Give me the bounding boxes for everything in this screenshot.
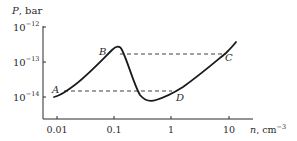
x-tick-label: 0.01 (46, 124, 67, 135)
pv-isotherm-chart: P, bar 10−12 10−13 10−14 0.01 0.1 1 10 n… (0, 0, 297, 141)
point-label-c: C (225, 52, 233, 63)
point-label-a: A (51, 84, 59, 95)
point-label-b: B (98, 46, 106, 57)
x-tick-label: 1 (168, 124, 174, 135)
x-tick-label: 0.1 (106, 124, 121, 135)
x-axis-title: n, cm−3 (250, 123, 286, 135)
y-tick-label: 10−12 (13, 20, 39, 33)
x-tick-label: 10 (223, 124, 235, 135)
chart-canvas: P, bar 10−12 10−13 10−14 0.01 0.1 1 10 n… (0, 0, 297, 141)
y-tick-label: 10−14 (13, 90, 39, 103)
isotherm-curve (54, 42, 236, 101)
y-tick-label: 10−13 (13, 55, 39, 68)
point-label-d: D (175, 92, 184, 103)
y-axis-title: P, bar (11, 5, 42, 16)
